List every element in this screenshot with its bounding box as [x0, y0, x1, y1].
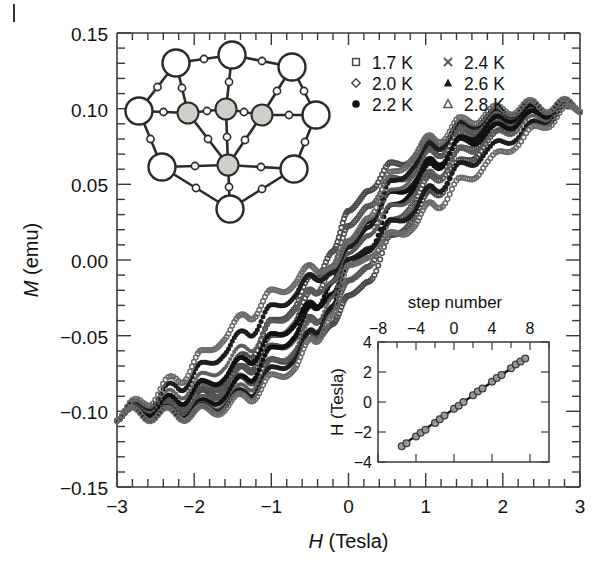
- inset-y-tick-label: 2: [363, 364, 372, 381]
- data-point: [382, 211, 386, 215]
- inset-x-tick-label: 4: [488, 320, 497, 337]
- data-point: [452, 166, 457, 171]
- data-point: [226, 361, 230, 365]
- oxygen-atom: [258, 57, 265, 64]
- outer-manganese-atom: [303, 102, 330, 129]
- y-tick-label: 0.10: [71, 100, 108, 121]
- oxygen-atom: [285, 111, 292, 118]
- y-axis-title-symbol: M: [20, 280, 42, 297]
- outer-manganese-atom: [219, 42, 246, 69]
- y-tick-label: 0.00: [71, 251, 108, 272]
- outer-manganese-atom: [279, 54, 306, 81]
- data-point: [261, 357, 266, 362]
- data-point: [448, 162, 452, 166]
- data-point: [257, 351, 262, 356]
- y-tick-label: −0.05: [60, 327, 108, 348]
- x-tick-label: −3: [106, 496, 128, 517]
- x-tick-label: −1: [260, 496, 282, 517]
- data-point: [255, 344, 259, 348]
- data-point: [257, 340, 261, 344]
- data-point: [298, 323, 303, 328]
- data-point: [449, 171, 454, 176]
- x-axis-title: H (Tesla): [308, 530, 388, 552]
- y-tick-label: −0.10: [60, 402, 108, 423]
- y-tick-label: 0.15: [71, 24, 108, 45]
- y-tick-label: 0.05: [71, 175, 108, 196]
- inner-manganese-atom: [218, 155, 239, 176]
- x-tick-label: 2: [498, 496, 509, 517]
- inner-manganese-atom: [178, 103, 199, 124]
- legend-label: 2.4 K: [464, 53, 505, 73]
- data-point: [445, 167, 449, 171]
- inset-data-point: [522, 355, 529, 362]
- data-point: [262, 353, 267, 358]
- data-point: [447, 151, 452, 156]
- data-point: [303, 325, 307, 329]
- oxygen-atom: [225, 78, 232, 85]
- oxygen-atom: [200, 55, 207, 62]
- outer-manganese-atom: [217, 196, 244, 223]
- oxygen-atom: [203, 107, 210, 114]
- oxygen-atom: [241, 136, 248, 143]
- inset-data-point: [441, 412, 448, 419]
- data-point: [447, 176, 452, 181]
- inset-data-point: [479, 385, 486, 392]
- oxygen-atom: [301, 138, 308, 145]
- legend-label: 2.6 K: [464, 74, 505, 94]
- data-point: [299, 318, 304, 323]
- oxygen-atom: [147, 135, 154, 142]
- data-point: [443, 150, 447, 154]
- inset-x-tick-label: −4: [407, 320, 425, 337]
- legend-label: 2.8 K: [464, 95, 505, 115]
- y-axis-title-unit: (emu): [20, 223, 42, 281]
- data-point: [384, 207, 388, 211]
- inset-y-tick-label: 4: [363, 334, 372, 351]
- data-point: [259, 319, 264, 324]
- oxygen-atom: [154, 83, 161, 90]
- inset-y-axis-title: H (Tesla): [328, 368, 347, 436]
- x-tick-label: 0: [343, 496, 354, 517]
- legend-marker-filled-circle: [352, 100, 360, 108]
- inset-y-tick-label: −4: [354, 454, 372, 471]
- inset-data-point: [403, 440, 410, 447]
- data-point: [380, 215, 384, 219]
- legend-label: 1.7 K: [372, 53, 413, 73]
- data-point: [419, 180, 423, 184]
- data-point: [454, 149, 458, 153]
- legend-label: 2.2 K: [372, 95, 413, 115]
- oxygen-atom: [178, 84, 185, 91]
- data-point: [378, 220, 382, 224]
- data-point: [450, 158, 454, 162]
- oxygen-atom: [240, 108, 247, 115]
- data-point: [449, 146, 454, 151]
- outer-manganese-atom: [149, 154, 176, 181]
- oxygen-atom: [258, 185, 265, 192]
- oxygen-atom: [160, 108, 167, 115]
- legend-label: 2.0 K: [372, 74, 413, 94]
- data-point: [265, 361, 269, 365]
- inset-data-point: [422, 426, 429, 433]
- inset-data-point: [460, 399, 467, 406]
- magnetic-hysteresis-figure: 0.15 0.10 0.05 0.00 −0.05 −0.10 −0.15 −3…: [0, 0, 615, 578]
- inset-data-point: [498, 372, 505, 379]
- oxygen-atom: [204, 135, 211, 142]
- oxygen-atom: [257, 163, 264, 170]
- oxygen-atom: [192, 184, 199, 191]
- oxygen-atom: [273, 87, 280, 94]
- x-tick-label: −2: [183, 496, 205, 517]
- inset-x-tick-label: 8: [526, 320, 535, 337]
- data-point: [259, 335, 263, 339]
- data-point: [452, 142, 457, 147]
- data-point: [524, 117, 528, 121]
- data-point: [261, 331, 265, 335]
- outer-manganese-atom: [126, 98, 153, 125]
- data-point: [325, 302, 329, 306]
- figure-canvas: 0.15 0.10 0.05 0.00 −0.05 −0.10 −0.15 −3…: [0, 0, 615, 578]
- data-point: [257, 367, 262, 372]
- inner-manganese-atom: [252, 105, 273, 126]
- x-tick-label: 3: [575, 496, 586, 517]
- inner-manganese-atom: [216, 99, 237, 120]
- outer-manganese-atom: [281, 156, 308, 183]
- y-tick-label: −0.15: [60, 478, 108, 499]
- outer-manganese-atom: [163, 50, 190, 77]
